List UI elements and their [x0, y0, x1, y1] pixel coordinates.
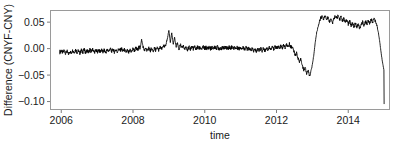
series-line-difference [60, 15, 384, 104]
x-tick-label: 2008 [121, 114, 145, 126]
y-axis-ticks: 0.050.00−0.05−0.10 [18, 16, 51, 107]
x-axis-ticks: 20062008201020122014 [50, 110, 361, 126]
y-tick-label: 0.05 [24, 16, 45, 28]
line-chart: Difference (CNYF-CNY) time 0.050.00−0.05… [0, 0, 398, 143]
x-tick-label: 2014 [337, 114, 361, 126]
y-tick-label: −0.10 [18, 95, 45, 107]
x-tick-label: 2006 [50, 114, 74, 126]
x-axis-title: time [210, 129, 230, 141]
y-tick-label: −0.05 [18, 69, 45, 81]
y-tick-label: 0.00 [24, 42, 45, 54]
chart-figure: Difference (CNYF-CNY) time 0.050.00−0.05… [0, 0, 398, 143]
x-tick-label: 2012 [265, 114, 289, 126]
x-tick-label: 2010 [193, 114, 217, 126]
series-group [60, 15, 384, 104]
y-axis-title: Difference (CNYF-CNY) [2, 4, 14, 116]
plot-panel-border [51, 11, 390, 110]
